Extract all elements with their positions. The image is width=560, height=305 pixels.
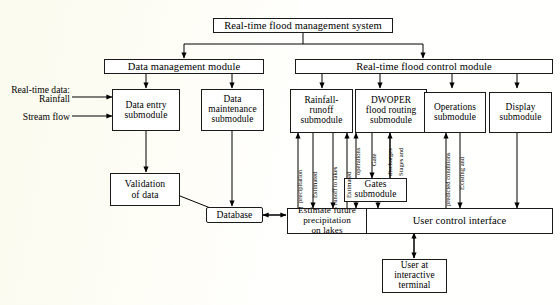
node-data-entry-submodule: Data entry submodule	[112, 89, 180, 131]
edge-label-estimated-runoff-line1: Estimated	[345, 172, 352, 198]
edge-label-estimated-runoff-line2: runoff to lakes	[331, 167, 338, 205]
node-database-label: Database	[215, 210, 255, 220]
node-estimate-future-precipitation: Estimate future precipitation on lakes	[287, 208, 367, 234]
node-user-control-interface-label: User control interface	[411, 215, 509, 226]
edge-label-runoff-to-lakes-text: runoff to lakes	[331, 167, 338, 205]
node-display-line2: submodule	[497, 113, 543, 123]
input-label-realtime-data-line2-text: Rainfall	[39, 93, 70, 104]
node-dwoper-submodule: DWOPER flood routing submodule	[355, 89, 427, 133]
node-user-control-interface: User control interface	[366, 208, 553, 234]
node-operations-submodule: Operations submodule	[424, 92, 486, 133]
node-data-management-module: Data management module	[104, 59, 264, 74]
node-root: Real-time flood management system	[213, 18, 393, 33]
edge-label-gate-text: Gate	[370, 154, 377, 166]
node-gates-line2: submodule	[352, 190, 398, 200]
node-display-submodule: Display submodule	[489, 92, 552, 133]
input-label-stream-flow-text: Stream flow	[23, 111, 70, 122]
node-flood-control-module: Real-time flood control module	[295, 59, 553, 74]
edge-label-gate-operations-line2: operations	[354, 148, 361, 175]
node-root-label: Real-time flood management system	[222, 20, 384, 31]
edge-label-predicted-conditions-text: predicted conditions	[444, 152, 451, 206]
edge-label-estimated-text: Estimated	[311, 172, 318, 198]
node-validation-line1: Validation	[123, 179, 167, 189]
node-database: Database	[206, 207, 263, 223]
node-validation-of-data: Validation of data	[110, 173, 180, 206]
edge-label-existing-and-text: Existing and	[458, 157, 465, 190]
edge-label-stages-and-text: Stages and	[397, 148, 404, 176]
diagram-canvas: Real-time flood management system Data m…	[0, 0, 560, 305]
node-estimate-line3: on lakes	[309, 226, 344, 236]
node-rainfall-runoff-line3: submodule	[298, 116, 344, 126]
edge-label-existing-predicted-line1: Existing and	[458, 157, 465, 190]
node-data-maintenance-submodule: Data maintenance submodule	[201, 89, 264, 131]
edge-label-estimated-precipitation-line2: precipitation	[296, 170, 303, 203]
node-data-maintenance-line3: submodule	[209, 115, 255, 125]
edge-label-estimated-precipitation-line1: Estimated	[311, 172, 318, 198]
edge-label-gate-operations-line1: Gate	[370, 154, 377, 166]
edge-label-estimated-runoff-text: Estimated	[345, 172, 352, 198]
node-operations-line2: submodule	[432, 113, 478, 123]
node-gates-submodule: Gates submodule	[344, 178, 407, 202]
edge-label-existing-predicted-line2: predicted conditions	[444, 152, 451, 206]
edge-label-operations-text: operations	[354, 148, 361, 175]
edge-label-precipitation-text: precipitation	[296, 170, 303, 203]
node-data-management-module-label: Data management module	[126, 61, 242, 72]
node-flood-control-module-label: Real-time flood control module	[354, 61, 494, 72]
connector-layer	[0, 0, 560, 305]
edge-label-stages-discharges-line2: discharges	[386, 148, 393, 176]
edge-label-discharges-text: discharges	[386, 148, 393, 176]
node-rainfall-runoff-submodule: Rainfall- runoff submodule	[290, 89, 353, 133]
node-dwoper-line3: submodule	[368, 116, 414, 126]
node-user-terminal-line3: terminal	[396, 281, 432, 291]
input-label-realtime-data-line2: Rainfall	[0, 93, 70, 104]
node-data-entry-line2: submodule	[122, 110, 169, 120]
node-user-interactive-terminal: User at interactive terminal	[382, 259, 447, 293]
node-display-line1: Display	[504, 103, 538, 113]
node-operations-line1: Operations	[432, 103, 478, 113]
input-label-stream-flow: Stream flow	[0, 111, 70, 122]
edge-label-stages-discharges-line1: Stages and	[397, 148, 404, 176]
node-validation-line2: of data	[129, 190, 160, 200]
